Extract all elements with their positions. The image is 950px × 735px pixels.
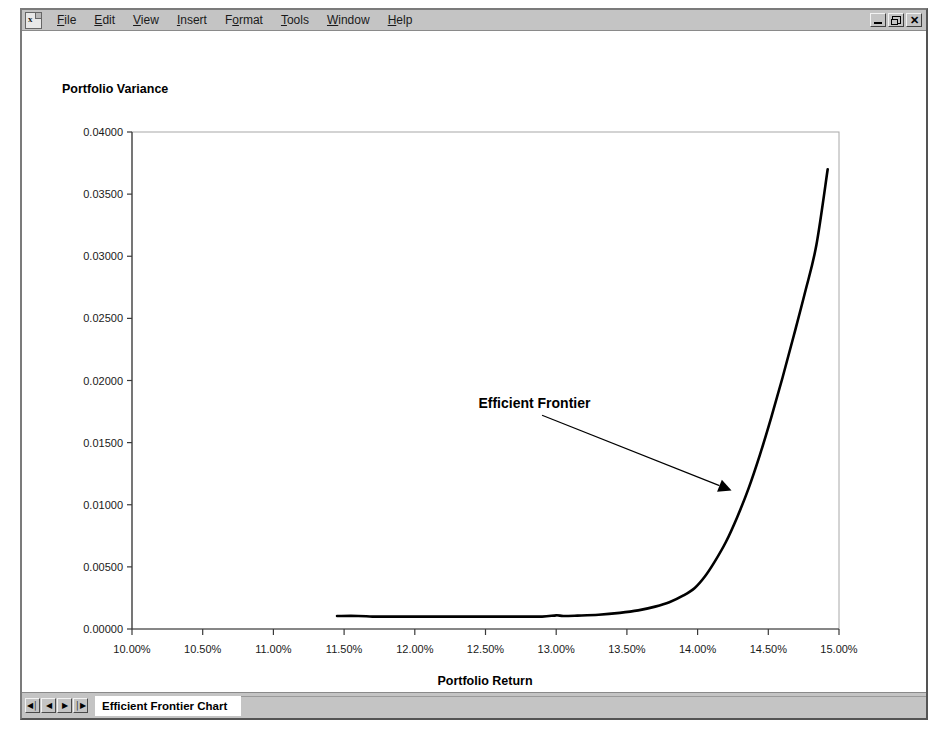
menu-label-edit: dit: [102, 13, 115, 27]
x-axis-ticks: [132, 629, 839, 635]
efficient-frontier-chart[interactable]: 0.000000.005000.010000.015000.020000.025…: [22, 31, 926, 692]
spreadsheet-document-icon[interactable]: x: [25, 12, 42, 29]
close-icon: ✕: [907, 14, 921, 26]
svg-text:14.00%: 14.00%: [679, 643, 717, 655]
menu-accel-help: H: [388, 13, 397, 27]
first-sheet-icon: ◀│: [27, 701, 38, 710]
first-sheet-button[interactable]: ◀│: [25, 698, 40, 713]
svg-text:12.00%: 12.00%: [396, 643, 434, 655]
last-sheet-button[interactable]: │▶: [73, 698, 88, 713]
x-axis-tick-labels: 10.00%10.50%11.00%11.50%12.00%12.50%13.0…: [113, 643, 858, 655]
last-sheet-icon: │▶: [75, 701, 86, 710]
menu-item-insert[interactable]: Insert: [168, 12, 216, 29]
chart-sheet[interactable]: 0.000000.005000.010000.015000.020000.025…: [22, 31, 926, 692]
svg-text:15.00%: 15.00%: [820, 643, 858, 655]
plot-area-border: [132, 132, 839, 629]
menu-item-format[interactable]: Format: [216, 12, 272, 29]
next-sheet-button[interactable]: ▶: [57, 698, 72, 713]
restore-icon: [892, 16, 901, 24]
svg-text:10.00%: 10.00%: [113, 643, 151, 655]
app-icon-glyph: x: [28, 14, 33, 24]
sheet-tab-efficient-frontier-chart[interactable]: Efficient Frontier Chart: [95, 696, 241, 716]
sheet-tab-filler: [240, 696, 926, 716]
svg-text:0.00000: 0.00000: [83, 623, 123, 635]
excel-chart-window: x File Edit View Insert Format Tools Win…: [20, 8, 928, 720]
svg-text:11.00%: 11.00%: [255, 643, 292, 655]
screenshot-root: x File Edit View Insert Format Tools Win…: [0, 0, 950, 735]
window-controls: ✕: [870, 13, 922, 27]
menu-label-view: iew: [141, 13, 159, 27]
app-icon-fold: [35, 13, 41, 19]
menu-item-view[interactable]: View: [124, 12, 168, 29]
annotation-label: Efficient Frontier: [478, 395, 591, 411]
menu-accel-window: W: [327, 13, 338, 27]
prev-sheet-button[interactable]: ◀: [41, 698, 56, 713]
menu-item-edit[interactable]: Edit: [85, 12, 124, 29]
svg-text:0.04000: 0.04000: [83, 126, 123, 138]
menu-label-format-b: rmat: [239, 13, 263, 27]
svg-text:0.03500: 0.03500: [83, 188, 123, 200]
svg-text:0.02000: 0.02000: [83, 375, 123, 387]
menu-label-file: ile: [64, 13, 76, 27]
svg-text:0.00500: 0.00500: [83, 561, 123, 573]
svg-text:12.50%: 12.50%: [467, 643, 505, 655]
y-axis-ticks: [127, 132, 132, 629]
chart-canvas: 0.000000.005000.010000.015000.020000.025…: [22, 31, 926, 692]
svg-text:0.03000: 0.03000: [83, 250, 123, 262]
svg-text:10.50%: 10.50%: [184, 643, 222, 655]
menu-label-tools: ools: [287, 13, 309, 27]
y-axis-title: Portfolio Variance: [62, 82, 168, 96]
menu-item-file[interactable]: File: [48, 12, 85, 29]
svg-text:11.50%: 11.50%: [326, 643, 363, 655]
menu-item-help[interactable]: Help: [379, 12, 422, 29]
menu-accel-format: o: [232, 13, 239, 27]
svg-text:0.01500: 0.01500: [83, 437, 123, 449]
minimize-icon: [874, 22, 882, 24]
svg-text:14.50%: 14.50%: [750, 643, 788, 655]
menu-label-help: elp: [396, 13, 412, 27]
svg-text:0.01000: 0.01000: [83, 499, 123, 511]
next-sheet-icon: ▶: [62, 701, 68, 710]
menu-bar: x File Edit View Insert Format Tools Win…: [22, 10, 926, 31]
close-button[interactable]: ✕: [906, 13, 922, 27]
svg-text:13.50%: 13.50%: [608, 643, 646, 655]
restore-button[interactable]: [888, 13, 904, 27]
menu-item-tools[interactable]: Tools: [272, 12, 318, 29]
menu-label-insert: nsert: [180, 13, 207, 27]
minimize-button[interactable]: [870, 13, 886, 27]
menu-item-window[interactable]: Window: [318, 12, 379, 29]
menu-label-window: indow: [338, 13, 369, 27]
sheet-tab-bar: ◀│ ◀ ▶ │▶ Efficient Frontier Chart: [22, 692, 926, 718]
svg-text:0.02500: 0.02500: [83, 312, 123, 324]
x-axis-title: Portfolio Return: [437, 674, 532, 688]
prev-sheet-icon: ◀: [46, 701, 52, 710]
y-axis-tick-labels: 0.000000.005000.010000.015000.020000.025…: [83, 126, 123, 635]
menu-accel-view: V: [133, 13, 141, 27]
svg-text:13.00%: 13.00%: [538, 643, 576, 655]
